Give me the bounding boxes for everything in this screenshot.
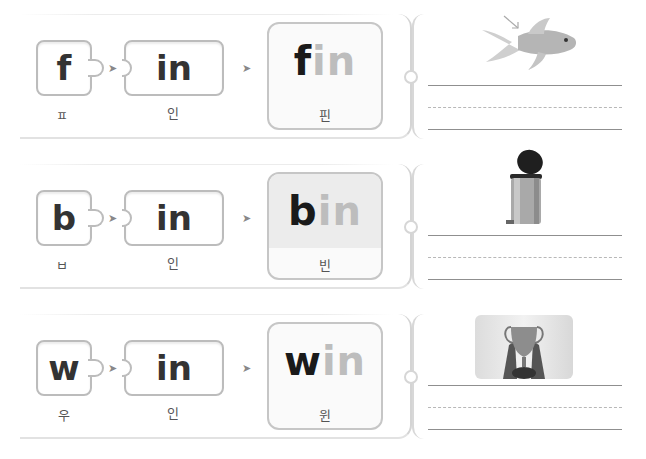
connector-knob [404, 220, 418, 234]
result-word-box: fin 핀 [267, 22, 383, 130]
rime-piece[interactable]: in [124, 40, 224, 96]
writing-line-bottom[interactable] [428, 279, 622, 280]
result-rime: in [322, 338, 366, 384]
onset-piece[interactable]: b [36, 190, 92, 246]
trash-bin-picture-icon [504, 148, 550, 230]
rime-korean-label: 인 [167, 253, 179, 272]
exercise-row-fin: f ➤ in ➤ ㅍ 인 fin 핀 [0, 0, 646, 150]
result-korean-label: 핀 [269, 98, 381, 130]
writing-line-top[interactable] [428, 85, 622, 86]
onset-letter: b [52, 198, 76, 238]
result-word-box: win 윈 [267, 322, 383, 430]
rime-korean-label: 인 [167, 403, 179, 422]
rime-korean-label: 인 [167, 103, 179, 122]
result-onset: b [288, 188, 318, 234]
result-korean-label: 빈 [269, 248, 381, 280]
result-rime: in [312, 38, 356, 84]
rime-letters: in [156, 198, 192, 238]
result-word: win [269, 324, 381, 398]
result-word-box: bin 빈 [267, 172, 383, 280]
result-word: bin [269, 174, 381, 248]
result-onset: f [294, 38, 312, 84]
connector-knob [404, 370, 418, 384]
connector-knob [404, 70, 418, 84]
onset-letter: w [48, 348, 79, 388]
arrow-right-icon: ➤ [242, 362, 251, 375]
arrow-right-icon: ➤ [108, 212, 117, 225]
writing-line-mid[interactable] [428, 407, 622, 408]
result-word: fin [269, 24, 381, 98]
writing-line-mid[interactable] [428, 257, 622, 258]
rime-piece[interactable]: in [124, 340, 224, 396]
onset-korean-label: ㅍ [56, 105, 68, 124]
rime-piece[interactable]: in [124, 190, 224, 246]
result-onset: w [284, 338, 322, 384]
writing-line-bottom[interactable] [428, 129, 622, 130]
writing-line-top[interactable] [428, 235, 622, 236]
rime-letters: in [156, 48, 192, 88]
onset-korean-label: ㅂ [56, 255, 68, 274]
onset-korean-label: 우 [58, 405, 70, 424]
exercise-row-bin: b ➤ in ➤ ㅂ 인 bin 빈 [0, 150, 646, 300]
onset-piece[interactable]: w [36, 340, 92, 396]
goldfish-picture-icon [478, 12, 582, 74]
arrow-right-icon: ➤ [108, 62, 117, 75]
onset-letter: f [57, 48, 72, 88]
result-rime: in [318, 188, 362, 234]
writing-line-mid[interactable] [428, 107, 622, 108]
exercise-row-win: w ➤ in ➤ 우 인 win 윈 [0, 300, 646, 450]
arrow-right-icon: ➤ [242, 62, 251, 75]
arrow-right-icon: ➤ [242, 212, 251, 225]
writing-line-bottom[interactable] [428, 429, 622, 430]
writing-line-top[interactable] [428, 385, 622, 386]
result-korean-label: 윈 [269, 398, 381, 430]
arrow-right-icon: ➤ [108, 362, 117, 375]
onset-piece[interactable]: f [36, 40, 92, 96]
trophy-picture-icon [475, 315, 573, 379]
rime-letters: in [156, 348, 192, 388]
